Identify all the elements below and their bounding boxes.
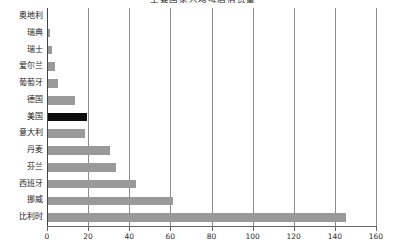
category-label: 美国 bbox=[0, 109, 43, 126]
x-tick-mark bbox=[129, 227, 130, 231]
x-tick-label: 0 bbox=[34, 232, 60, 242]
category-label: 奥地利 bbox=[0, 8, 43, 25]
category-label: 意大利 bbox=[0, 125, 43, 142]
bar bbox=[48, 180, 136, 189]
x-tick-label: 60 bbox=[157, 232, 183, 242]
x-tick-label: 160 bbox=[363, 232, 389, 242]
bar bbox=[48, 96, 75, 105]
bar-row: 瑞士 bbox=[0, 42, 406, 59]
bar bbox=[48, 46, 52, 55]
bar-row: 美国 bbox=[0, 109, 406, 126]
bar bbox=[48, 163, 116, 172]
x-tick-mark bbox=[335, 227, 336, 231]
category-label: 西班牙 bbox=[0, 176, 43, 193]
category-label: 瑞典 bbox=[0, 25, 43, 42]
bar-chart: 主要国家人均啤酒消费量 020406080100120140160 奥地利瑞典瑞… bbox=[0, 0, 406, 252]
x-tick-label: 40 bbox=[116, 232, 142, 242]
chart-title: 主要国家人均啤酒消费量 bbox=[0, 0, 406, 3]
category-label: 葡萄牙 bbox=[0, 75, 43, 92]
x-tick-mark bbox=[170, 227, 171, 231]
x-tick-label: 140 bbox=[322, 232, 348, 242]
bar bbox=[48, 79, 58, 88]
x-tick-label: 120 bbox=[281, 232, 307, 242]
category-label: 爱尔兰 bbox=[0, 58, 43, 75]
bar-row: 德国 bbox=[0, 92, 406, 109]
bar bbox=[48, 197, 173, 206]
bar bbox=[48, 62, 55, 71]
bar-row: 爱尔兰 bbox=[0, 58, 406, 75]
x-tick-label: 100 bbox=[240, 232, 266, 242]
category-label: 丹麦 bbox=[0, 142, 43, 159]
x-tick-mark bbox=[294, 227, 295, 231]
bar-row: 奥地利 bbox=[0, 8, 406, 25]
bar-row: 瑞典 bbox=[0, 25, 406, 42]
category-label: 芬兰 bbox=[0, 159, 43, 176]
x-tick-label: 80 bbox=[199, 232, 225, 242]
bar bbox=[48, 113, 87, 122]
category-label: 瑞士 bbox=[0, 42, 43, 59]
bar-row: 意大利 bbox=[0, 125, 406, 142]
x-tick-mark bbox=[88, 227, 89, 231]
bar-row: 芬兰 bbox=[0, 159, 406, 176]
category-label: 挪威 bbox=[0, 192, 43, 209]
category-label: 德国 bbox=[0, 92, 43, 109]
x-tick-label: 20 bbox=[75, 232, 101, 242]
x-tick-mark bbox=[212, 227, 213, 231]
bar bbox=[48, 213, 346, 222]
bar-row: 比利时 bbox=[0, 209, 406, 226]
bar bbox=[48, 129, 85, 138]
bar bbox=[48, 146, 110, 155]
category-label: 比利时 bbox=[0, 209, 43, 226]
bar-row: 挪威 bbox=[0, 192, 406, 209]
bar-row: 葡萄牙 bbox=[0, 75, 406, 92]
x-tick-mark bbox=[376, 227, 377, 231]
x-tick-mark bbox=[253, 227, 254, 231]
bar-row: 丹麦 bbox=[0, 142, 406, 159]
x-tick-mark bbox=[47, 227, 48, 231]
bar bbox=[48, 29, 50, 38]
bar-row: 西班牙 bbox=[0, 176, 406, 193]
